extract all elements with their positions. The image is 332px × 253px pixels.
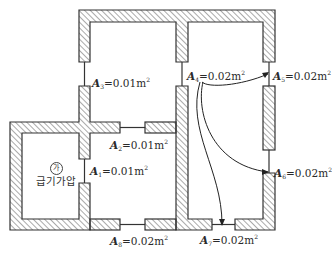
middle-wall bbox=[176, 86, 212, 230]
label-a8: A8=0.02m2 bbox=[110, 235, 168, 248]
flow-arrows bbox=[197, 72, 269, 226]
upper-wall bbox=[79, 10, 275, 62]
flow-arrow-to-a6 bbox=[201, 82, 268, 172]
label-a6: A6=0.02m2 bbox=[274, 167, 332, 180]
arrowhead-a5 bbox=[262, 72, 269, 78]
right-wall-lower bbox=[235, 173, 275, 230]
flow-arrow-to-a7 bbox=[197, 82, 222, 224]
wall-segment-a2-right bbox=[145, 122, 176, 133]
left-room-top-wall bbox=[10, 86, 120, 230]
room-name: 급기가압 bbox=[36, 175, 76, 187]
label-a7: A7=0.02m2 bbox=[200, 234, 258, 247]
wall-segment-a8-left bbox=[90, 219, 120, 230]
room-label: 가 급기가압 bbox=[28, 160, 84, 189]
label-a2: A2=0.01m2 bbox=[110, 139, 168, 152]
walls bbox=[10, 10, 275, 230]
right-wall-middle bbox=[263, 86, 275, 150]
label-a5: A5=0.02m2 bbox=[273, 70, 331, 83]
label-a1: A1=0.01m2 bbox=[90, 165, 148, 178]
label-a4: A4=0.02m2 bbox=[187, 70, 245, 83]
label-a3: A3=0.01m2 bbox=[92, 77, 150, 90]
wall-segment-a8-right bbox=[145, 219, 176, 230]
room-marker: 가 bbox=[50, 162, 63, 175]
